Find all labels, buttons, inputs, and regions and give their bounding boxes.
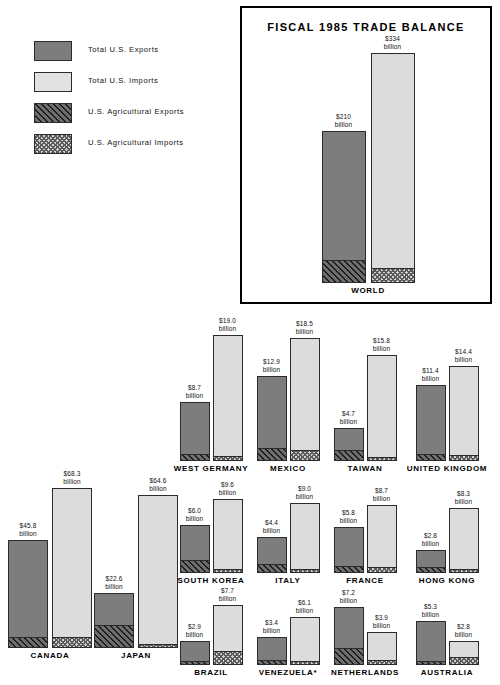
bar-value-amount: $8.7 bbox=[171, 384, 219, 392]
bar-value-amount: $12.9 bbox=[248, 358, 296, 366]
agricultural-imports-band bbox=[450, 455, 478, 460]
world-panel-title: FISCAL 1985 TRADE BALANCE bbox=[242, 21, 490, 33]
bar-value-label: $22.6billion bbox=[85, 575, 143, 590]
bar-value-amount: $2.8 bbox=[407, 532, 455, 540]
agricultural-exports-band bbox=[417, 567, 445, 572]
bar-value-amount: $68.3 bbox=[43, 470, 101, 478]
exports-bar bbox=[334, 428, 364, 461]
agricultural-imports-band bbox=[291, 569, 319, 572]
bar-value-unit: billion bbox=[363, 43, 423, 51]
bar-value-label: $64.6billion bbox=[129, 477, 187, 492]
agricultural-exports-band bbox=[9, 637, 47, 647]
agricultural-imports-band bbox=[372, 268, 414, 282]
agricultural-imports-band bbox=[450, 657, 478, 664]
bar-value-unit: billion bbox=[248, 627, 296, 635]
exports-bar bbox=[8, 540, 48, 648]
bar-value-label: $45.8billion bbox=[0, 522, 57, 537]
legend-label: U.S. Agricultural Exports bbox=[88, 107, 184, 116]
bar-value-amount: $8.7 bbox=[358, 487, 406, 495]
exports-bar bbox=[257, 637, 287, 665]
bar-value-unit: billion bbox=[440, 498, 488, 506]
bar-value-unit: billion bbox=[440, 631, 488, 639]
imports-bar bbox=[367, 632, 397, 665]
country-label-world: WORLD bbox=[308, 286, 428, 295]
bar-value-label: $15.8billion bbox=[358, 337, 406, 352]
bar-value-unit: billion bbox=[248, 527, 296, 535]
bar-value-label: $6.1billion bbox=[281, 599, 329, 614]
bar-value-unit: billion bbox=[325, 517, 373, 525]
agricultural-exports-band bbox=[417, 661, 445, 664]
agricultural-imports-band bbox=[214, 456, 242, 460]
legend-swatch-solid-dark-gray bbox=[34, 41, 72, 61]
bar-value-unit: billion bbox=[281, 493, 329, 501]
bar-value-label: $8.7billion bbox=[171, 384, 219, 399]
imports-bar bbox=[367, 355, 397, 461]
bar-value-label: $9.0billion bbox=[281, 485, 329, 500]
bar-value-label: $4.7billion bbox=[325, 410, 373, 425]
bar-value-label: $7.2billion bbox=[325, 589, 373, 604]
bar-value-unit: billion bbox=[325, 597, 373, 605]
bar-value-unit: billion bbox=[0, 530, 57, 538]
bar-value-label: $7.7billion bbox=[204, 587, 252, 602]
agricultural-imports-band bbox=[291, 661, 319, 664]
bar-value-label: $2.9billion bbox=[171, 623, 219, 638]
bar-value-unit: billion bbox=[85, 583, 143, 591]
bar-value-label: $11.4billion bbox=[407, 367, 455, 382]
bar-value-label: $9.6billion bbox=[204, 481, 252, 496]
bar-value-amount: $334 bbox=[363, 35, 423, 43]
bar-value-amount: $14.4 bbox=[440, 348, 488, 356]
legend-swatch-diagonal-hatch bbox=[34, 103, 72, 123]
agricultural-imports-band bbox=[214, 569, 242, 572]
bar-value-amount: $15.8 bbox=[358, 337, 406, 345]
bar-value-unit: billion bbox=[407, 540, 455, 548]
exports-bar bbox=[180, 641, 210, 665]
bar-value-amount: $11.4 bbox=[407, 367, 455, 375]
agricultural-exports-band bbox=[417, 454, 445, 460]
imports-bar bbox=[449, 641, 479, 665]
bar-value-amount: $5.8 bbox=[325, 509, 373, 517]
agricultural-imports-band bbox=[53, 637, 91, 647]
bar-value-label: $2.8billion bbox=[407, 532, 455, 547]
exports-bar bbox=[416, 385, 446, 461]
bar-value-unit: billion bbox=[407, 375, 455, 383]
bar-value-amount: $7.2 bbox=[325, 589, 373, 597]
bar-value-unit: billion bbox=[440, 356, 488, 364]
bar-value-amount: $22.6 bbox=[85, 575, 143, 583]
agricultural-exports-band bbox=[181, 560, 209, 572]
exports-bar bbox=[180, 402, 210, 461]
world-panel: FISCAL 1985 TRADE BALANCE $210billion$33… bbox=[240, 6, 492, 304]
bar-value-amount: $7.7 bbox=[204, 587, 252, 595]
agricultural-imports-band bbox=[214, 651, 242, 664]
bar-value-unit: billion bbox=[314, 121, 374, 129]
bar-value-unit: billion bbox=[248, 366, 296, 374]
agricultural-exports-band bbox=[335, 566, 363, 572]
bar-value-unit: billion bbox=[407, 611, 455, 619]
legend-label: U.S. Agricultural Imports bbox=[88, 138, 184, 147]
exports-bar bbox=[334, 527, 364, 573]
bar-value-label: $5.8billion bbox=[325, 509, 373, 524]
bar-value-label: $3.4billion bbox=[248, 619, 296, 634]
bar-value-label: $12.9billion bbox=[248, 358, 296, 373]
bar-value-amount: $64.6 bbox=[129, 477, 187, 485]
agricultural-exports-band bbox=[335, 648, 363, 664]
bar-value-amount: $6.1 bbox=[281, 599, 329, 607]
bar-value-amount: $3.4 bbox=[248, 619, 296, 627]
agricultural-exports-band bbox=[258, 660, 286, 664]
bar-value-unit: billion bbox=[325, 418, 373, 426]
bar-value-amount: $6.0 bbox=[171, 507, 219, 515]
bar-value-unit: billion bbox=[281, 607, 329, 615]
bar-value-amount: $5.3 bbox=[407, 603, 455, 611]
bar-value-amount: $4.4 bbox=[248, 519, 296, 527]
bar-value-amount: $9.6 bbox=[204, 481, 252, 489]
bar-value-amount: $2.8 bbox=[440, 623, 488, 631]
bar-value-amount: $9.0 bbox=[281, 485, 329, 493]
bar-value-unit: billion bbox=[171, 515, 219, 523]
bar-value-label: $2.8billion bbox=[440, 623, 488, 638]
bar-value-label: $334billion bbox=[363, 35, 423, 50]
bar-value-unit: billion bbox=[358, 495, 406, 503]
bar-value-unit: billion bbox=[204, 489, 252, 497]
exports-bar bbox=[416, 550, 446, 573]
legend-swatch-solid-light-gray bbox=[34, 72, 72, 92]
bar-value-unit: billion bbox=[358, 622, 406, 630]
exports-bar bbox=[94, 593, 134, 648]
